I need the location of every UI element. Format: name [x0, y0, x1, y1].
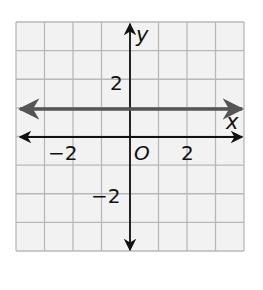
y-tick-label-neg2: −2: [91, 184, 120, 208]
origin-label: O: [134, 141, 150, 165]
coordinate-graph: y x O −2 2 2 −2: [0, 0, 263, 290]
x-axis-label: x: [225, 110, 239, 134]
y-tick-label-2: 2: [110, 71, 123, 95]
y-axis-label: y: [135, 23, 149, 47]
x-tick-label-2: 2: [181, 141, 194, 165]
x-tick-label-neg2: −2: [48, 141, 77, 165]
